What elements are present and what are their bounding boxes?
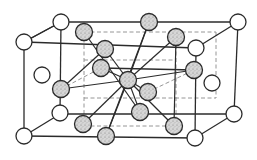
open-atom-corner-front-bottom-left bbox=[16, 128, 32, 144]
shaded-atom-center bbox=[120, 72, 137, 89]
shaded-atom-left-face bbox=[53, 81, 70, 98]
open-atom-corner-front-top-right bbox=[188, 40, 204, 56]
shaded-atom-bottom-right bbox=[166, 118, 183, 135]
crystal-structure-diagram bbox=[0, 0, 257, 160]
shaded-atom-bottom-left bbox=[75, 116, 92, 133]
cube-edge bbox=[234, 22, 238, 114]
open-atom-corner-back-top-right bbox=[230, 14, 246, 30]
shaded-atom-left-mid bbox=[93, 60, 110, 77]
cube-edge bbox=[101, 68, 194, 70]
shaded-atom-upper-left-back bbox=[76, 24, 93, 41]
shaded-atom-bottom-front bbox=[98, 128, 115, 145]
shaded-atom-top-face bbox=[141, 14, 158, 31]
open-atom-corner-back-top-left bbox=[53, 14, 69, 30]
open-atom-corner-back-bottom-left bbox=[52, 105, 68, 121]
open-atom-face-right bbox=[204, 75, 220, 91]
shaded-atoms bbox=[53, 14, 203, 145]
shaded-atom-lower-right-2 bbox=[132, 104, 149, 121]
shaded-atom-upper-right bbox=[168, 29, 185, 46]
open-atom-corner-front-bottom-right bbox=[187, 130, 203, 146]
open-atom-corner-front-top-left bbox=[16, 34, 32, 50]
open-atom-face-left bbox=[34, 67, 50, 83]
cube-edge bbox=[60, 22, 61, 114]
shaded-atom-lower-right-1 bbox=[140, 84, 157, 101]
open-atom-corner-back-bottom-right bbox=[226, 106, 242, 122]
shaded-atom-right-face bbox=[186, 62, 203, 79]
bond-line bbox=[83, 80, 128, 124]
shaded-atom-upper-left bbox=[97, 41, 114, 58]
